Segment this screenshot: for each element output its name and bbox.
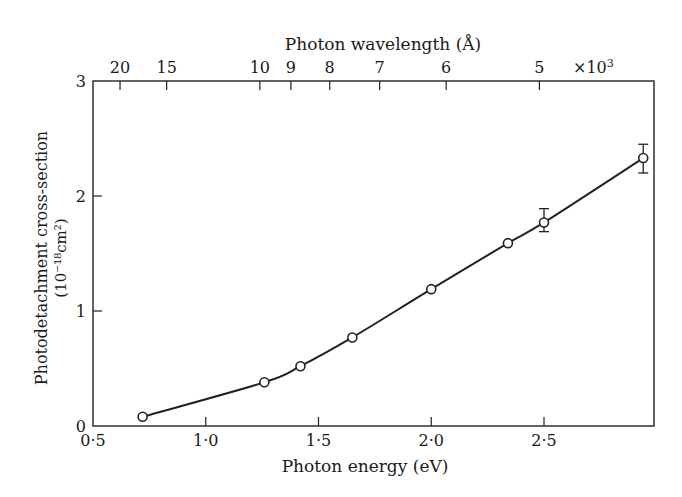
data-point-open-circle bbox=[427, 285, 436, 294]
data-point-open-circle bbox=[260, 378, 269, 387]
plot-border bbox=[93, 81, 654, 426]
data-point-open-circle bbox=[540, 218, 549, 227]
data-curve bbox=[143, 158, 644, 417]
data-point-open-circle bbox=[348, 333, 357, 342]
x-tick-label: 1·0 bbox=[193, 431, 218, 450]
photodetachment-chart: 0·51·01·52·02·5 0123 20151098765 Photon … bbox=[0, 0, 682, 497]
top-tick-label: 6 bbox=[441, 58, 451, 77]
fit-line bbox=[143, 158, 644, 417]
top-tick-label: 15 bbox=[156, 58, 176, 77]
top-tick-label: 7 bbox=[375, 58, 385, 77]
y-tick-label: 1 bbox=[76, 302, 86, 321]
x-tick-label: 2·0 bbox=[419, 431, 444, 450]
plot-frame bbox=[93, 81, 654, 426]
top-tick-label: 20 bbox=[110, 58, 130, 77]
data-point-open-circle bbox=[296, 362, 305, 371]
y-tick-label: 3 bbox=[76, 72, 86, 91]
y-tick-label: 0 bbox=[76, 417, 86, 436]
top-tick-label: 9 bbox=[286, 58, 296, 77]
top-tick-label: 8 bbox=[325, 58, 335, 77]
x-tick-label: 1·5 bbox=[306, 431, 331, 450]
y-axis-title: Photodetachment cross-section bbox=[32, 131, 51, 385]
x-axis-ticks: 0·51·01·52·02·5 bbox=[80, 417, 556, 450]
y-tick-label: 2 bbox=[76, 187, 86, 206]
y-axis-units: (10⁻¹⁸cm²) bbox=[52, 218, 70, 297]
data-point-open-circle bbox=[639, 154, 648, 163]
top-axis-multiplier: ×103 bbox=[573, 57, 614, 77]
top-tick-label: 5 bbox=[534, 58, 544, 77]
x-axis-title: Photon energy (eV) bbox=[282, 456, 449, 476]
data-point-open-circle bbox=[503, 239, 512, 248]
data-points bbox=[138, 144, 648, 421]
top-wavelength-axis-ticks: 20151098765 bbox=[110, 58, 545, 90]
y-axis-ticks: 0123 bbox=[76, 72, 102, 436]
top-tick-label: 10 bbox=[250, 58, 270, 77]
top-axis-title: Photon wavelength (Å) bbox=[285, 34, 481, 54]
x-tick-label: 2·5 bbox=[531, 431, 556, 450]
data-point-open-circle bbox=[138, 412, 147, 421]
